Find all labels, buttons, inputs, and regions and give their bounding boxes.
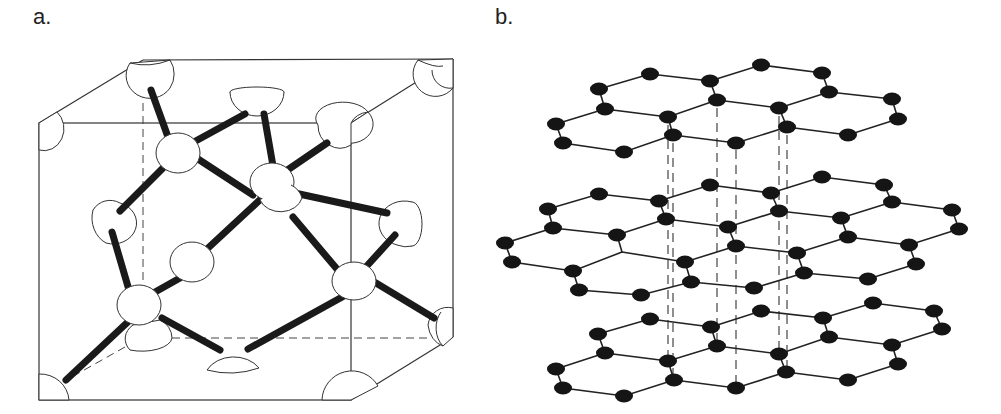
top-layer-atoms (547, 59, 907, 159)
graphite-layers-diagram (0, 0, 1001, 414)
bottom-layer-bonds (556, 303, 942, 396)
